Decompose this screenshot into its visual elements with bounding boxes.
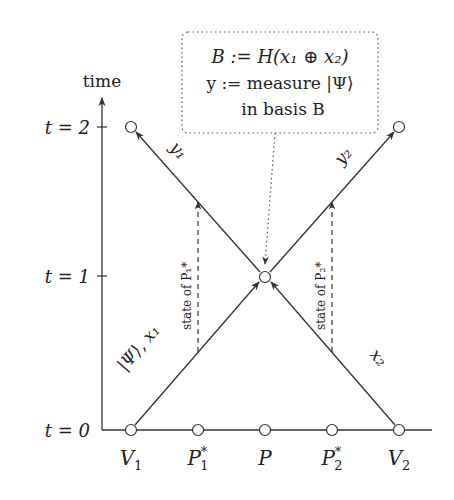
- node-V1: [126, 425, 137, 436]
- node-center: [260, 272, 271, 283]
- node-top-left: [126, 122, 137, 133]
- edge-label-left-in: |Ψ⟩, x₁: [113, 320, 164, 374]
- edge-label-right-in: x₂: [366, 345, 392, 371]
- tick-label-t0: t = 0: [45, 420, 90, 441]
- label-V2: V2: [388, 446, 411, 473]
- label-P1star: P*1: [186, 444, 208, 473]
- axis-label: time: [83, 71, 121, 91]
- node-labels: V1 P*1 P P*2 V2: [120, 444, 411, 473]
- tick-label-t2: t = 2: [45, 117, 90, 138]
- label-P: P: [257, 446, 272, 470]
- box-line-1: B := H(x₁ ⊕ x₂): [211, 46, 349, 67]
- tick-label-t1: t = 1: [45, 266, 90, 287]
- box-line-2: y := measure |Ψ⟩: [205, 73, 353, 93]
- edge-label-right-out: y₂: [329, 143, 356, 169]
- dashed-label-right: state of P₂*: [314, 262, 328, 330]
- box-line-3: in basis B: [241, 99, 325, 119]
- node-P: [260, 425, 271, 436]
- time-axis: time t = 0 t = 1 t = 2: [45, 71, 432, 441]
- spacetime-diagram: time t = 0 t = 1 t = 2 B := H(x₁ ⊕ x₂) y…: [0, 0, 454, 500]
- label-P2star: P*2: [320, 444, 342, 473]
- node-top-right: [394, 122, 405, 133]
- label-V1: V1: [120, 446, 143, 473]
- node-P2star: [327, 425, 338, 436]
- dashed-label-left: state of P₁*: [180, 262, 194, 330]
- node-V2: [394, 425, 405, 436]
- measurement-box: B := H(x₁ ⊕ x₂) y := measure |Ψ⟩ in basi…: [182, 32, 378, 264]
- edge-label-left-out: y₁: [165, 137, 192, 163]
- node-P1star: [193, 425, 204, 436]
- edges: |Ψ⟩, x₁ x₂ y₁ y₂ state of P₁* state of P…: [113, 132, 395, 425]
